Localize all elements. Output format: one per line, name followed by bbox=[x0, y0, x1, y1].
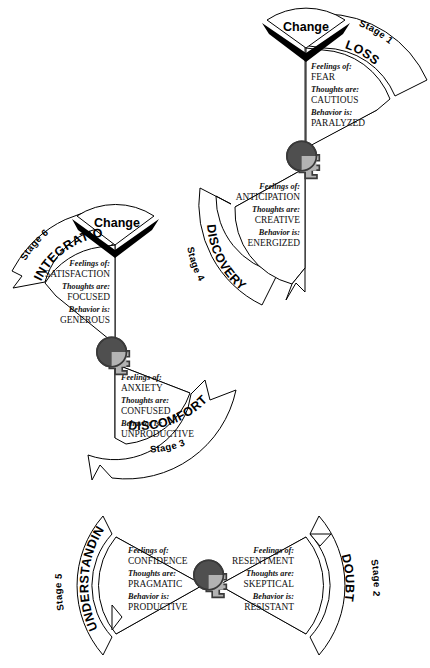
stage-5-thoughts-value: PRAGMATIC bbox=[128, 579, 182, 589]
head-profile-icon-bottom bbox=[194, 560, 226, 597]
stage-2-group[interactable]: DOUBT Stage 2 Feelings of: RESENTMENT Th… bbox=[219, 516, 383, 655]
stage-5-behavior-key: Behavior is: bbox=[127, 592, 169, 601]
stage-2-number-text: Stage 2 bbox=[369, 558, 383, 597]
stage-4-thoughts-key: Thoughts are: bbox=[252, 205, 300, 214]
stage-2-feelings-value: RESENTMENT bbox=[232, 556, 294, 566]
stage-5-behavior-value: PRODUCTIVE bbox=[128, 602, 188, 612]
stage-1-behavior-key: Behavior is: bbox=[310, 108, 352, 117]
stage-2-behavior-key: Behavior is: bbox=[252, 592, 294, 601]
stage-5-number-text: Stage 5 bbox=[52, 573, 66, 612]
stage-1-feelings-key: Feelings of: bbox=[310, 62, 352, 71]
stages-of-change-diagram: Change Stage 1 LOSS Feelings of: FEAR Th… bbox=[0, 0, 430, 668]
stage-3-behavior-value: UNPRODUCTIVE bbox=[121, 429, 194, 439]
stage-1-thoughts-key: Thoughts are: bbox=[311, 85, 359, 94]
stage-6-thoughts-key: Thoughts are: bbox=[62, 282, 110, 291]
stage-2-number: Stage 2 bbox=[369, 558, 383, 597]
stage-3-behavior-key: Behavior is: bbox=[120, 419, 162, 428]
stage-5-thoughts-key: Thoughts are: bbox=[128, 569, 176, 578]
stage-5-number: Stage 5 bbox=[52, 573, 66, 612]
stage-3-feelings-value: ANXIETY bbox=[121, 383, 163, 393]
stage-2-feelings-key: Feelings of: bbox=[252, 546, 294, 555]
stage-4-behavior-value: ENERGIZED bbox=[247, 238, 300, 248]
stage-4-number: Stage 4 bbox=[185, 246, 207, 283]
stage-6-thoughts-value: FOCUSED bbox=[67, 292, 110, 302]
stage-1-feelings-value: FEAR bbox=[311, 72, 336, 82]
stage-2-thoughts-key: Thoughts are: bbox=[246, 569, 294, 578]
stage-1-thoughts-value: CAUTIOUS bbox=[311, 95, 358, 105]
stage-5-feelings-key: Feelings of: bbox=[127, 546, 169, 555]
stage-2-behavior-value: RESISTANT bbox=[244, 602, 294, 612]
stage-1-change-label: Change bbox=[283, 20, 329, 34]
stage-2-thoughts-value: SKEPTICAL bbox=[243, 579, 294, 589]
stage-6-feelings-value: SATISFACTION bbox=[45, 269, 110, 279]
stage-5-feelings-value: CONFIDENCE bbox=[128, 556, 188, 566]
stage-3-thoughts-value: CONFUSED bbox=[121, 406, 171, 416]
stage-6-behavior-value: GENEROUS bbox=[60, 315, 110, 325]
stage-4-number-text: Stage 4 bbox=[185, 246, 207, 283]
stage-4-group[interactable]: DISCOVERY Stage 4 Feelings of: ANTICIPAT… bbox=[185, 168, 305, 305]
stage-6-feelings-key: Feelings of: bbox=[68, 259, 110, 268]
stage-1-behavior-value: PARALYZED bbox=[311, 118, 365, 128]
stage-4-feelings-value: ANTICIPATION bbox=[236, 192, 300, 202]
diagram-canvas: Change Stage 1 LOSS Feelings of: FEAR Th… bbox=[0, 0, 430, 668]
stage-4-thoughts-value: CREATIVE bbox=[255, 215, 301, 225]
stage-6-group[interactable]: Change Stage 6 INTEGRATION Feelings of: … bbox=[0, 0, 159, 344]
stage-6-behavior-key: Behavior is: bbox=[68, 305, 110, 314]
head-profile-icon-top bbox=[287, 141, 319, 178]
stage-5-attributes: Feelings of: CONFIDENCE Thoughts are: PR… bbox=[127, 546, 188, 612]
stage-3-group[interactable]: DISCOMFORT Stage 3 Feelings of: ANXIETY … bbox=[88, 364, 236, 480]
stage-4-behavior-key: Behavior is: bbox=[258, 228, 300, 237]
stage-1-group[interactable]: Change Stage 1 LOSS Feelings of: FEAR Th… bbox=[262, 8, 427, 148]
stage-4-feelings-key: Feelings of: bbox=[258, 182, 300, 191]
stage-3-thoughts-key: Thoughts are: bbox=[121, 396, 169, 405]
